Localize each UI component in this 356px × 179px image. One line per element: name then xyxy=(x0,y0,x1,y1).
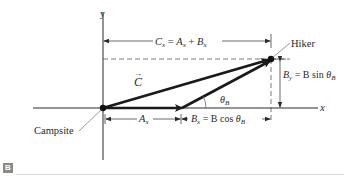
ax-label: Ax xyxy=(138,113,149,126)
y-axis-label: y xyxy=(100,8,105,19)
campsite-leader-line xyxy=(79,109,102,131)
hiker-leader-line xyxy=(272,43,290,58)
figure-tag: B xyxy=(3,163,13,173)
vector-c-label: C xyxy=(134,75,143,89)
figure-divider xyxy=(16,174,344,175)
x-axis-label: x xyxy=(319,101,325,113)
angle-label: θB xyxy=(220,94,230,107)
bx-equation: Bx = B cos θB xyxy=(191,113,246,126)
hiker-label: Hiker xyxy=(291,38,315,49)
campsite-label: Campsite xyxy=(34,125,74,136)
by-equation: By = B sin θB xyxy=(283,69,336,82)
vector-addition-diagram: y x → C θB Cx = Ax + Bx Hiker Campsite B… xyxy=(0,0,356,179)
vector-c-resultant xyxy=(103,60,268,108)
cx-equation: Cx = Ax + Bx xyxy=(155,36,207,49)
